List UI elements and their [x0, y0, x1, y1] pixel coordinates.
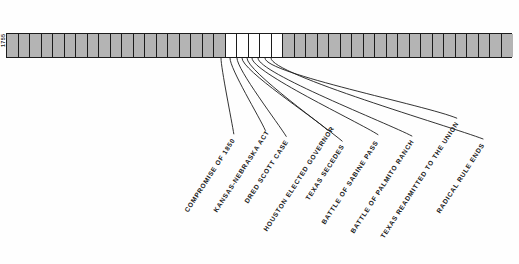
leader-line	[258, 58, 412, 136]
timeline-cell[interactable]	[7, 34, 19, 57]
timeline-cell[interactable]	[249, 34, 261, 57]
leader-line	[252, 58, 378, 135]
timeline-figure: 1755176017651770177517801785179017951800…	[0, 0, 519, 264]
timeline-cell[interactable]	[364, 34, 376, 57]
timeline-cell[interactable]	[191, 34, 203, 57]
event-label: TEXAS READMITTED TO THE UNION	[379, 120, 460, 239]
timeline-cell[interactable]	[444, 34, 456, 57]
event-label: BATTLE OF PALMITO RANCH	[349, 138, 415, 234]
timeline-cell[interactable]	[180, 34, 192, 57]
timeline-cell[interactable]	[53, 34, 65, 57]
timeline-cell[interactable]	[295, 34, 307, 57]
timeline-cell[interactable]	[272, 34, 284, 57]
timeline-cell[interactable]	[65, 34, 77, 57]
timeline-cell[interactable]	[490, 34, 502, 57]
leader-line	[242, 58, 328, 130]
timeline-cell[interactable]	[306, 34, 318, 57]
timeline-cell[interactable]	[479, 34, 491, 57]
timeline-cell[interactable]	[318, 34, 330, 57]
timeline-cell[interactable]	[237, 34, 249, 57]
leader-line	[230, 58, 265, 130]
timeline-cell[interactable]	[88, 34, 100, 57]
event-label: RADICAL RULE ENDS	[435, 142, 486, 215]
timeline-cell[interactable]	[456, 34, 468, 57]
timeline-cell[interactable]	[352, 34, 364, 57]
timeline-cell[interactable]	[421, 34, 433, 57]
year-axis: 1755176017651770177517801785179017951800…	[0, 0, 519, 33]
timeline-cell[interactable]	[387, 34, 399, 57]
timeline-cell[interactable]	[260, 34, 272, 57]
event-label: BATTLE OF SABINE PASS	[320, 139, 379, 225]
leader-line	[237, 58, 286, 137]
timeline-cell[interactable]	[145, 34, 157, 57]
event-label: DRED SCOTT CASE	[243, 138, 289, 204]
timeline-cell[interactable]	[203, 34, 215, 57]
timeline-cell[interactable]	[157, 34, 169, 57]
event-label: COMPROMISE OF 1850	[183, 137, 236, 214]
timeline-cell[interactable]	[329, 34, 341, 57]
timeline-cell[interactable]	[76, 34, 88, 57]
leader-line	[265, 58, 457, 118]
timeline-cell[interactable]	[122, 34, 134, 57]
timeline-cell[interactable]	[375, 34, 387, 57]
timeline-bar[interactable]	[6, 33, 512, 58]
timeline-cell[interactable]	[99, 34, 111, 57]
timeline-cell[interactable]	[111, 34, 123, 57]
timeline-cell[interactable]	[502, 34, 514, 57]
leader-line	[221, 58, 234, 134]
timeline-cell[interactable]	[283, 34, 295, 57]
timeline-cell[interactable]	[168, 34, 180, 57]
timeline-cell[interactable]	[226, 34, 238, 57]
timeline-cell[interactable]	[30, 34, 42, 57]
timeline-cell[interactable]	[42, 34, 54, 57]
timeline-cell[interactable]	[433, 34, 445, 57]
timeline-cell[interactable]	[410, 34, 422, 57]
timeline-cell[interactable]	[19, 34, 31, 57]
timeline-cell[interactable]	[214, 34, 226, 57]
timeline-cell[interactable]	[134, 34, 146, 57]
timeline-cell[interactable]	[398, 34, 410, 57]
timeline-cell[interactable]	[467, 34, 479, 57]
timeline-cell[interactable]	[341, 34, 353, 57]
